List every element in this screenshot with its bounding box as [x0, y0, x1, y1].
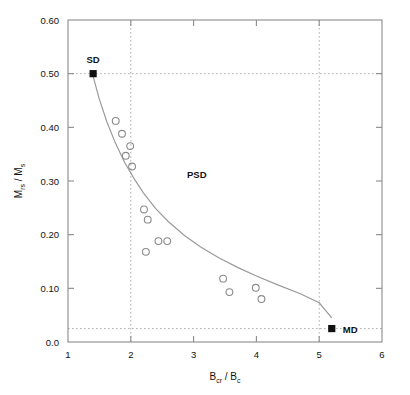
- y-tick-label-0.0: 0.0: [46, 337, 59, 348]
- domain-label-md: MD: [343, 324, 358, 335]
- domain-label-sd: SD: [87, 54, 100, 65]
- y-tick-label-0.40: 0.40: [41, 122, 60, 133]
- region-labels-group: PSD: [187, 169, 207, 180]
- y-tick-label-0.10: 0.10: [41, 283, 60, 294]
- scatter-chart-canvas: 1234560.00.100.200.300.400.500.60 SDMD P…: [0, 0, 410, 395]
- chart-background: [0, 0, 410, 395]
- x-tick-label-6: 6: [379, 349, 384, 360]
- region-label-psd: PSD: [187, 169, 207, 180]
- x-tick-label-4: 4: [254, 349, 259, 360]
- x-tick-label-2: 2: [128, 349, 133, 360]
- day-plot-figure: 1234560.00.100.200.300.400.500.60 SDMD P…: [0, 0, 410, 395]
- x-tick-label-5: 5: [317, 349, 322, 360]
- domain-marker-md: [328, 325, 335, 332]
- y-tick-label-0.20: 0.20: [41, 229, 60, 240]
- y-tick-label-0.50: 0.50: [41, 68, 60, 79]
- y-tick-label-0.30: 0.30: [41, 176, 60, 187]
- x-tick-label-1: 1: [65, 349, 70, 360]
- domain-marker-sd: [90, 70, 97, 77]
- y-tick-label-0.60: 0.60: [41, 15, 60, 26]
- x-tick-label-3: 3: [191, 349, 196, 360]
